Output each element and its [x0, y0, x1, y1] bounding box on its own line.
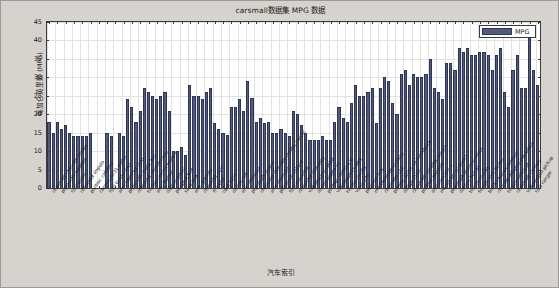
y-tick-mark [46, 40, 49, 41]
y-tick-mark [46, 114, 49, 115]
x-tick-mark [331, 21, 332, 24]
x-tick-mark [289, 21, 290, 24]
x-tick-mark [480, 21, 481, 24]
y-tick-mark [538, 59, 541, 60]
x-tick-mark [414, 21, 415, 24]
x-tick-mark [356, 21, 357, 24]
y-tick-label: 35 [20, 55, 42, 63]
x-tick-mark [149, 21, 150, 24]
y-tick-mark [538, 96, 541, 97]
x-tick-mark [447, 21, 448, 24]
x-tick-mark [314, 21, 315, 24]
y-tick-label: 45 [20, 18, 42, 26]
x-tick-mark [182, 21, 183, 24]
x-tick-mark [115, 21, 116, 24]
legend-label-mpg: MPG [515, 28, 530, 36]
chart-title: carsmall数据集 MPG 数据 [1, 4, 559, 15]
x-tick-mark [240, 21, 241, 24]
y-tick-mark [46, 151, 49, 152]
legend[interactable]: MPG [479, 25, 536, 38]
y-tick-mark [538, 114, 541, 115]
x-tick-mark [157, 21, 158, 24]
x-tick-mark [223, 21, 224, 24]
x-tick-mark [298, 21, 299, 24]
x-tick-mark [281, 21, 282, 24]
x-tick-mark [505, 21, 506, 24]
x-tick-mark [364, 21, 365, 24]
figure-window: carsmall数据集 MPG 数据 每加仑英里数 (MPG) 05101520… [0, 0, 559, 288]
x-tick-mark [455, 21, 456, 24]
x-tick-mark [439, 21, 440, 24]
x-tick-mark [273, 21, 274, 24]
y-tick-mark [46, 77, 49, 78]
x-tick-mark [339, 21, 340, 24]
x-tick-mark [347, 21, 348, 24]
x-tick-mark [430, 21, 431, 24]
x-tick-mark [66, 21, 67, 24]
x-tick-mark [124, 21, 125, 24]
x-axis-tick-labels: chevrolet chevelle malibuplymouth satell… [1, 189, 559, 261]
x-tick-mark [91, 21, 92, 24]
x-tick-mark [82, 21, 83, 24]
y-tick-label: 15 [20, 129, 42, 137]
x-tick-mark [538, 21, 539, 24]
y-tick-label: 25 [20, 92, 42, 100]
x-tick-mark [256, 21, 257, 24]
bar [47, 122, 50, 188]
x-tick-mark [372, 21, 373, 24]
x-tick-mark [74, 21, 75, 24]
x-tick-mark [323, 21, 324, 24]
x-tick-mark [306, 21, 307, 24]
y-tick-label: 40 [20, 36, 42, 44]
y-tick-mark [46, 133, 49, 134]
x-tick-mark [132, 21, 133, 24]
x-tick-mark [472, 21, 473, 24]
x-tick-mark [107, 21, 108, 24]
x-tick-mark [497, 21, 498, 24]
x-tick-mark [215, 21, 216, 24]
y-tick-mark [538, 151, 541, 152]
y-tick-mark [538, 77, 541, 78]
y-tick-mark [46, 96, 49, 97]
x-tick-mark [381, 21, 382, 24]
x-tick-mark [397, 21, 398, 24]
legend-swatch-mpg [482, 28, 512, 35]
x-axis-label: 汽车索引 [1, 267, 559, 277]
y-tick-mark [538, 133, 541, 134]
x-tick-mark [530, 21, 531, 24]
x-tick-mark [198, 21, 199, 24]
y-tick-mark [46, 59, 49, 60]
bar [52, 133, 55, 188]
x-tick-mark [405, 21, 406, 24]
x-tick-mark [49, 21, 50, 24]
bar [371, 88, 374, 188]
x-tick-mark [488, 21, 489, 24]
x-tick-mark [231, 21, 232, 24]
y-tick-label: 20 [20, 110, 42, 118]
y-tick-label: 10 [20, 147, 42, 155]
x-tick-mark [422, 21, 423, 24]
x-tick-mark [248, 21, 249, 24]
x-tick-mark [521, 21, 522, 24]
x-tick-mark [190, 21, 191, 24]
y-tick-mark [46, 170, 49, 171]
x-tick-mark [140, 21, 141, 24]
x-tick-mark [207, 21, 208, 24]
x-tick-mark [165, 21, 166, 24]
x-tick-mark [57, 21, 58, 24]
y-tick-label: 5 [20, 166, 42, 174]
x-tick-mark [173, 21, 174, 24]
x-tick-mark [265, 21, 266, 24]
y-tick-mark [538, 40, 541, 41]
x-tick-mark [513, 21, 514, 24]
y-tick-label: 30 [20, 73, 42, 81]
x-tick-mark [463, 21, 464, 24]
x-tick-mark [99, 21, 100, 24]
x-tick-mark [389, 21, 390, 24]
